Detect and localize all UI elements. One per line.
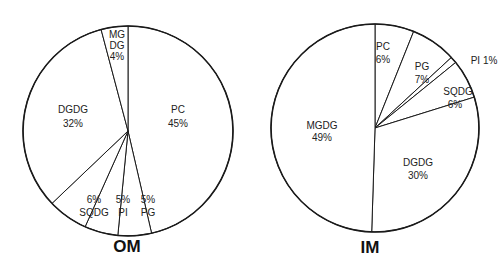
om-label-sqdg-value: 6% bbox=[87, 194, 102, 205]
om-label-dgdg-name: DGDG bbox=[58, 104, 88, 115]
im-label-sqdg-name: SQDG bbox=[443, 86, 473, 97]
im-label-pc-value: 6% bbox=[376, 54, 391, 65]
om-label-pc-value: 45% bbox=[168, 118, 188, 129]
om-label-mgdg-name1: MG bbox=[109, 29, 125, 40]
im-label-pi: PI 1% bbox=[471, 55, 498, 66]
im-label-pg-value: 7% bbox=[415, 74, 430, 85]
chart-canvas: PC 45% 5% PG 5% PI 6% SQDG DGDG 32% MG D… bbox=[0, 0, 504, 267]
om-label-pi-value: 5% bbox=[116, 194, 131, 205]
im-label-mgdg-name: MGDG bbox=[306, 120, 337, 131]
om-label-pc-name: PC bbox=[171, 104, 185, 115]
im-label-dgdg-value: 30% bbox=[408, 170, 428, 181]
im-label-mgdg-value: 49% bbox=[312, 132, 332, 143]
im-label-sqdg-value: 6% bbox=[448, 99, 463, 110]
om-label-dgdg-value: 32% bbox=[63, 118, 83, 129]
im-title: IM bbox=[361, 238, 380, 257]
om-title: OM bbox=[113, 237, 140, 256]
om-label-pi-name: PI bbox=[118, 207, 127, 218]
om-label-mgdg-name2: DG bbox=[110, 40, 125, 51]
im-label-pg-name: PG bbox=[415, 61, 430, 72]
im-label-pc-name: PC bbox=[376, 41, 390, 52]
om-label-mgdg-value: 4% bbox=[110, 51, 125, 62]
im-label-dgdg-name: DGDG bbox=[403, 157, 433, 168]
om-label-pg-value: 5% bbox=[141, 194, 156, 205]
om-label-sqdg-name: SQDG bbox=[79, 207, 109, 218]
om-label-pg-name: PG bbox=[141, 207, 156, 218]
